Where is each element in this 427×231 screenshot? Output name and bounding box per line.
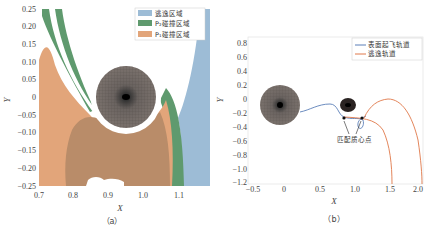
svg-text:0.6: 0.6	[237, 53, 247, 62]
legend-p2: P₂碰撞区域	[155, 19, 190, 28]
panel-a: 逃逸区域 P₂碰撞区域 P₁碰撞区域 0.25 0.20 0.15 0.10 0…	[2, 5, 210, 226]
legend-p1: P₁碰撞区域	[155, 30, 190, 39]
svg-text:−0.4: −0.4	[232, 123, 247, 132]
x-ticks-a: 0.7 0.8 0.9 1.0 1.1	[34, 191, 184, 200]
svg-text:0.20: 0.20	[22, 22, 36, 31]
legend-b: 表面起飞轨道 逃逸轨道	[352, 38, 422, 60]
legend-takeoff: 表面起飞轨道	[368, 40, 410, 49]
svg-text:−0.8: −0.8	[232, 151, 247, 160]
svg-text:−0.6: −0.6	[232, 137, 247, 146]
svg-text:−0.2: −0.2	[232, 109, 247, 118]
y-ticks-a: 0.25 0.20 0.15 0.10 0.05 0 −0.05 −0.10 −…	[17, 5, 36, 191]
svg-text:0.10: 0.10	[22, 58, 36, 67]
svg-text:0.2: 0.2	[237, 81, 247, 90]
svg-text:0.4: 0.4	[237, 67, 247, 76]
svg-text:0: 0	[243, 95, 247, 104]
svg-text:0.15: 0.15	[22, 40, 36, 49]
match-point-2	[360, 116, 363, 119]
svg-text:−1.0: −1.0	[232, 165, 247, 174]
surface-takeoff-trajectory	[300, 104, 366, 128]
y-axis-label-b: Y	[215, 97, 225, 103]
svg-text:−0.20: −0.20	[17, 164, 36, 173]
svg-text:0.8: 0.8	[68, 191, 78, 200]
escape-trajectory-outer	[364, 99, 422, 184]
panel-b-plot-area: 匹配质心点	[260, 85, 422, 184]
legend-a: 逃逸区域 P₂碰撞区域 P₁碰撞区域	[135, 8, 205, 40]
legend-escape: 逃逸区域	[155, 9, 183, 18]
svg-text:1.0: 1.0	[350, 185, 360, 194]
svg-text:0.8: 0.8	[237, 39, 247, 48]
y-ticks-b: 0.8 0.6 0.4 0.2 0 −0.2 −0.4 −0.6 −0.8 −1…	[232, 39, 247, 187]
svg-text:0: 0	[32, 93, 36, 102]
svg-text:−0.5: −0.5	[246, 185, 261, 194]
caption-b: （b）	[323, 215, 344, 224]
figure: 逃逸区域 P₂碰撞区域 P₁碰撞区域 0.25 0.20 0.15 0.10 0…	[0, 0, 427, 231]
caption-a: （a）	[102, 217, 123, 226]
svg-text:−0.15: −0.15	[17, 146, 36, 155]
escape-trajectory-inner	[344, 117, 392, 184]
svg-text:2.0: 2.0	[413, 185, 423, 194]
svg-text:0: 0	[282, 185, 286, 194]
svg-text:0.5: 0.5	[315, 185, 325, 194]
x-axis-label-a: X	[116, 203, 123, 213]
svg-text:0.7: 0.7	[34, 191, 44, 200]
annotation-match-centroid: 匹配质心点	[337, 135, 372, 144]
x-axis-label-b: X	[330, 196, 337, 206]
svg-text:−0.05: −0.05	[17, 111, 36, 120]
svg-text:0.05: 0.05	[22, 75, 36, 84]
svg-text:−0.10: −0.10	[17, 128, 36, 137]
legend-escape-trajectory: 逃逸轨道	[368, 49, 396, 58]
y-axis-label-a: Y	[2, 97, 12, 103]
annotation-arrow-1	[344, 121, 349, 134]
match-point-1	[342, 116, 345, 119]
svg-text:0.9: 0.9	[103, 191, 113, 200]
panel-b: 匹配质心点 表面起飞轨道 逃逸轨道 0.8 0.6 0.4 0.2 0 −0.2…	[215, 37, 423, 224]
x-ticks-b: −0.5 0 0.5 1.0 1.5 2.0	[246, 185, 423, 194]
svg-text:1.5: 1.5	[385, 185, 395, 194]
svg-text:0.25: 0.25	[22, 5, 36, 14]
svg-text:−0.25: −0.25	[17, 182, 36, 191]
svg-text:1.0: 1.0	[138, 191, 148, 200]
svg-text:1.1: 1.1	[174, 191, 184, 200]
